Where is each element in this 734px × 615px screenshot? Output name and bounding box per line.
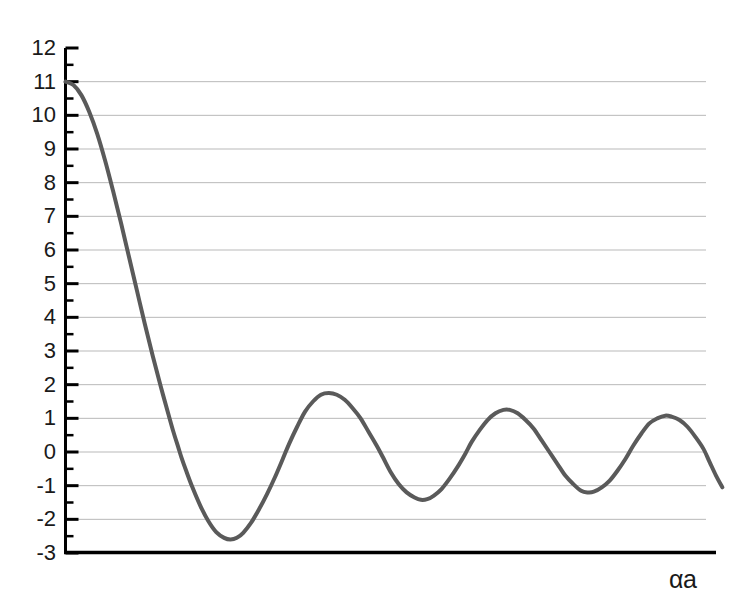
y-tick-label: 5 (8, 273, 56, 295)
y-tick-label: 8 (8, 172, 56, 194)
y-tick-label: 0 (8, 441, 56, 463)
y-tick-label: 12 (8, 37, 56, 59)
y-tick-label: 10 (8, 104, 56, 126)
y-tick-label: 9 (8, 138, 56, 160)
y-tick-label: 7 (8, 205, 56, 227)
chart-figure: 1211109876543210-1-2-3 αa (0, 0, 734, 615)
plot-canvas (0, 0, 734, 615)
y-tick-label: -3 (8, 542, 56, 564)
y-tick-label: 6 (8, 239, 56, 261)
y-tick-label: -2 (8, 508, 56, 530)
gridlines-group (66, 82, 707, 520)
x-axis-label: αa (669, 565, 696, 594)
y-tick-label: 4 (8, 306, 56, 328)
data-curve-series-1 (66, 82, 723, 540)
y-tick-label: 11 (8, 71, 56, 93)
y-tick-label: 2 (8, 374, 56, 396)
y-tick-label: 1 (8, 407, 56, 429)
y-tick-label: 3 (8, 340, 56, 362)
y-tick-label: -1 (8, 475, 56, 497)
